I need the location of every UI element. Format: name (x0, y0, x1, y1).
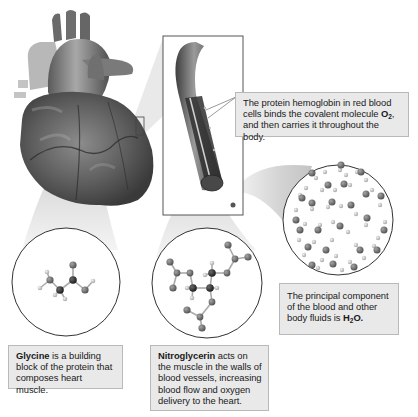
water-line-2: of the blood and other (287, 301, 392, 312)
diagram-stage: The protein hemoglobin in red blood cell… (0, 0, 418, 417)
water-line-3: body fluids is H2O. (287, 312, 392, 323)
hemoglobin-line-3: and then carries it throughout the body. (243, 119, 402, 141)
nitroglycerin-line-2: the muscle in the walls of (158, 361, 262, 372)
water-line-3-text: body fluids is (287, 312, 343, 323)
heart-illustration (14, 10, 153, 206)
water-line-1: The principal component (287, 290, 392, 301)
glycine-line-2: block of the protein that (16, 361, 116, 372)
nitroglycerin-line-1-text: acts on (215, 350, 247, 361)
oxygen-formula: O2 (381, 108, 392, 119)
hemoglobin-line-1: The protein hemoglobin in red blood (243, 97, 402, 108)
water-callout: The principal component of the blood and… (279, 283, 399, 335)
water-formula: H2O. (343, 312, 363, 323)
hemoglobin-callout: The protein hemoglobin in red blood cell… (235, 92, 409, 137)
nitroglycerin-line-1: Nitroglycerin acts on (158, 350, 262, 361)
nitroglycerin-line-4: blood flow and oxygen (158, 384, 262, 395)
nitroglycerin-line-5: delivery to the heart. (158, 395, 262, 406)
hemoglobin-line-2-punct: , (392, 108, 395, 119)
glycine-term: Glycine (16, 350, 50, 361)
hydrogen-symbol: H (343, 312, 350, 323)
blood-vessel-inset (163, 36, 243, 215)
hemoglobin-line-2-text: cells binds the covalent molecule (243, 108, 381, 119)
hemoglobin-line-2: cells binds the covalent molecule O2, (243, 108, 402, 119)
glycine-line-1: Glycine is a building (16, 350, 116, 361)
nitroglycerin-term: Nitroglycerin (158, 350, 215, 361)
nitroglycerin-callout: Nitroglycerin acts on the muscle in the … (150, 345, 269, 411)
glycine-line-1-text: is a building (50, 350, 101, 361)
nitroglycerin-molecule-view (152, 228, 262, 338)
nitroglycerin-line-3: blood vessels, increasing (158, 372, 262, 383)
oxygen-symbol: O. (353, 312, 363, 323)
glycine-molecule-view (12, 228, 120, 336)
glycine-callout: Glycine is a building block of the prote… (8, 345, 123, 389)
glycine-line-3: composes heart muscle. (16, 372, 116, 394)
